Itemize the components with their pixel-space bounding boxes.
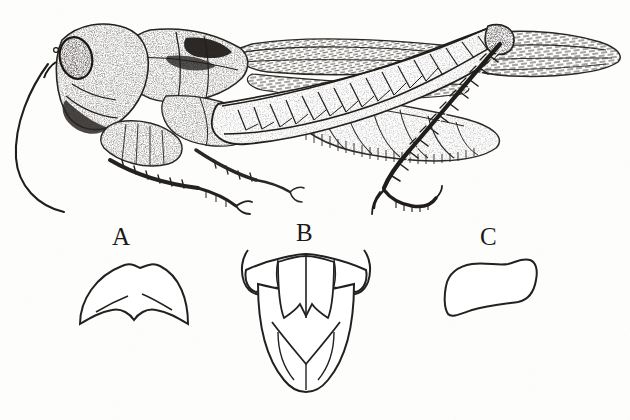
figure-label-a: A	[112, 224, 131, 249]
figure-label-c: C	[480, 224, 497, 249]
entomological-plate	[0, 0, 630, 420]
figure-label-b: B	[296, 220, 313, 245]
